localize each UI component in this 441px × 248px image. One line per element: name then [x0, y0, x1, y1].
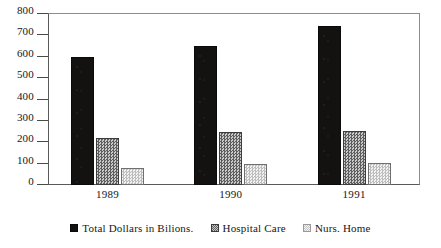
- bar-hospital-1991: [343, 131, 366, 185]
- legend-label-total: Total Dollars in Bilions.: [82, 222, 193, 234]
- y-axis-tick-mark: [37, 163, 48, 164]
- bar-nursing-1989: [121, 168, 144, 185]
- legend-swatch-hospital-icon: [211, 224, 219, 232]
- y-axis-tick-mark: [37, 13, 48, 14]
- y-axis-tick-label: 0: [28, 176, 34, 187]
- legend-swatch-total-icon: [70, 224, 78, 232]
- y-axis-tick-label: 700: [17, 26, 34, 37]
- y-axis-tick-label: 500: [17, 69, 34, 80]
- y-axis-tick-mark: [37, 56, 48, 57]
- x-axis-label-1991: 1991: [306, 188, 403, 200]
- y-axis: 8007006005004003002001000: [0, 13, 48, 185]
- y-axis-tick-label: 200: [17, 133, 34, 144]
- y-axis-tick-mark: [37, 141, 48, 142]
- legend-swatch-nursing-icon: [303, 224, 311, 232]
- bar-chart: 8007006005004003002001000 198919901991 T…: [0, 0, 441, 248]
- legend-item-hospital: Hospital Care: [211, 222, 286, 234]
- y-axis-tick-label: 600: [17, 48, 34, 59]
- legend-item-total: Total Dollars in Bilions.: [70, 222, 193, 234]
- y-axis-tick-mark: [37, 99, 48, 100]
- bar-hospital-1990: [219, 132, 242, 185]
- y-axis-tick-mark: [37, 184, 48, 185]
- bar-nursing-1990: [244, 164, 267, 185]
- bar-total-1990: [194, 46, 217, 185]
- y-axis-tick-label: 100: [17, 155, 34, 166]
- legend-label-nursing: Nurs. Home: [315, 222, 371, 234]
- bar-group-1990: [194, 14, 267, 185]
- chart-legend: Total Dollars in Bilions.Hospital CareNu…: [0, 219, 441, 237]
- bar-group-1989: [71, 14, 144, 185]
- y-axis-tick-mark: [37, 120, 48, 121]
- y-axis-tick-label: 800: [17, 5, 34, 16]
- y-axis-tick-mark: [37, 77, 48, 78]
- y-axis-tick-label: 400: [17, 91, 34, 102]
- x-axis-labels: 198919901991: [49, 188, 419, 206]
- legend-label-hospital: Hospital Care: [223, 222, 286, 234]
- bar-group-1991: [318, 14, 391, 185]
- bar-total-1991: [318, 26, 341, 185]
- x-axis-label-1989: 1989: [59, 188, 156, 200]
- legend-item-nursing: Nurs. Home: [303, 222, 371, 234]
- bar-hospital-1989: [96, 138, 119, 185]
- y-axis-tick-label: 300: [17, 112, 34, 123]
- plot-area: 8007006005004003002001000 198919901991: [0, 0, 441, 212]
- y-axis-tick-mark: [37, 34, 48, 35]
- bar-nursing-1991: [368, 163, 391, 185]
- bar-groups: [49, 14, 419, 185]
- bar-total-1989: [71, 57, 94, 185]
- x-axis-label-1990: 1990: [182, 188, 279, 200]
